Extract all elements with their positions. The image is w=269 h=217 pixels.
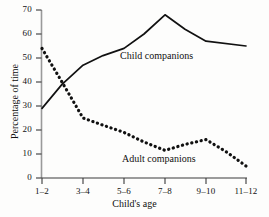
y-tick-marks: [36, 10, 42, 178]
x-axis-title: Child's age: [0, 198, 269, 209]
y-tick-label-60: 60: [14, 28, 32, 38]
series-line-child-companions: [42, 15, 246, 109]
chart-figure: 70 60 50 40 30 20 10 0 1–2 3–4 5–6 7–8 9…: [0, 0, 269, 217]
x-tick-label-1-2: 1–2: [22, 186, 62, 196]
y-axis-title: Percentage of time: [9, 47, 20, 157]
series-label-adult-companions: Adult companions: [122, 153, 196, 164]
series-line-adult-companions: [42, 48, 246, 166]
x-tick-label-5-6: 5–6: [104, 186, 144, 196]
chart-plot-area: [0, 0, 269, 217]
x-tick-label-7-8: 7–8: [145, 186, 185, 196]
y-tick-label-0: 0: [14, 172, 32, 182]
y-tick-label-70: 70: [14, 4, 32, 14]
x-tick-marks: [42, 178, 246, 184]
series-label-child-companions: Child companions: [120, 50, 193, 61]
x-tick-label-11-12: 11–12: [226, 186, 266, 196]
x-tick-label-3-4: 3–4: [63, 186, 103, 196]
x-tick-label-9-10: 9–10: [186, 186, 226, 196]
